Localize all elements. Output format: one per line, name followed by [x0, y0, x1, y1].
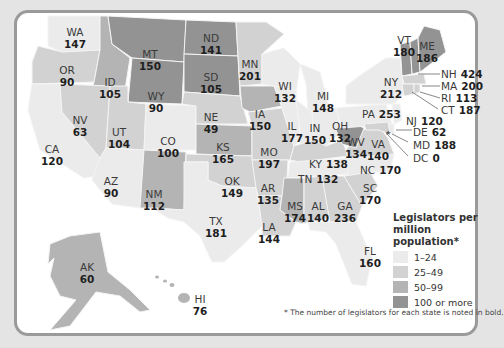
legend-item-25-49: 25–49 — [393, 266, 483, 278]
label-in: IN150 — [304, 122, 326, 146]
label-nc: NC170 — [360, 164, 401, 176]
map-legend: Legislators per million population* 1–24… — [393, 212, 483, 308]
label-ga: GA236 — [334, 200, 356, 224]
label-sd: SD105 — [200, 71, 222, 95]
label-hi: HI76 — [193, 293, 208, 317]
label-il: IL177 — [281, 120, 303, 144]
legend-label: 1–24 — [414, 252, 437, 263]
state-ri — [414, 84, 420, 94]
footnote: * The number of legislators for each sta… — [284, 308, 504, 317]
label-pa: PA253 — [362, 108, 401, 120]
label-mn: MN201 — [239, 58, 261, 82]
dc-star-icon: ★ — [385, 129, 391, 137]
label-wa: WA147 — [64, 26, 86, 50]
legend-title: Legislators per million population* — [393, 212, 483, 248]
label-me: ME186 — [416, 40, 438, 64]
legend-item-50-99: 50–99 — [393, 281, 483, 293]
label-nh: NH424 — [441, 68, 483, 80]
legend-label: 50–99 — [414, 282, 443, 293]
label-dc: DC0 — [413, 152, 440, 164]
state-ak — [48, 232, 150, 330]
legend-label: 25–49 — [414, 267, 443, 278]
label-id: ID105 — [99, 76, 121, 100]
label-ks: KS165 — [212, 141, 234, 165]
label-mi: MI148 — [312, 90, 334, 114]
label-ia: IA150 — [249, 108, 271, 132]
state-ma — [402, 74, 426, 84]
label-tx: TX181 — [205, 215, 227, 239]
label-wy: WY90 — [148, 90, 165, 114]
label-va: VA140 — [367, 138, 389, 162]
label-ky: KY138 — [309, 158, 348, 170]
label-nv: NV63 — [72, 114, 87, 138]
legend-swatch — [393, 281, 408, 293]
label-or: OR90 — [59, 64, 75, 88]
legend-swatch — [393, 251, 408, 263]
label-tn: TN132 — [298, 173, 338, 185]
label-de: DE62 — [413, 126, 446, 138]
state-ct — [402, 84, 414, 96]
label-az: AZ90 — [104, 175, 119, 199]
label-fl: FL160 — [359, 245, 381, 269]
label-nd: ND141 — [200, 32, 222, 56]
label-ma: MA200 — [441, 80, 483, 92]
label-ms: MS174 — [284, 200, 306, 224]
label-ut: UT104 — [108, 126, 130, 150]
label-ak: AK60 — [80, 261, 95, 285]
label-ok: OK149 — [221, 175, 243, 199]
label-mo: MO197 — [258, 146, 280, 170]
label-ri: RI113 — [441, 92, 477, 104]
label-mt: MT150 — [139, 48, 161, 72]
label-co: CO100 — [157, 135, 179, 159]
label-al: AL140 — [307, 200, 329, 224]
label-ny: NY212 — [380, 76, 402, 100]
legend-swatch — [393, 266, 408, 278]
state-hi — [155, 276, 190, 304]
label-wi: WI132 — [274, 80, 296, 104]
label-ar: AR135 — [257, 182, 279, 206]
label-vt: VT180 — [393, 34, 415, 58]
legend-item-100-plus: 100 or more — [393, 296, 483, 308]
label-sc: SC170 — [359, 182, 381, 206]
legend-item-1-24: 1–24 — [393, 251, 483, 263]
legend-swatch — [393, 296, 408, 308]
legend-label: 100 or more — [414, 297, 473, 308]
label-ct: CT187 — [441, 104, 481, 116]
label-ca: CA120 — [41, 143, 63, 167]
label-la: LA144 — [258, 221, 280, 245]
label-ne: NE49 — [204, 111, 219, 135]
label-md: MD188 — [413, 139, 456, 151]
label-wv: WV134 — [345, 136, 367, 160]
label-nm: NM112 — [143, 188, 165, 212]
